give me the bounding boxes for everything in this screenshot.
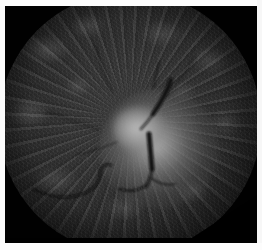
peripheral-vignette	[5, 6, 257, 243]
frame-edge-right	[257, 0, 262, 250]
frame-edge-top	[0, 0, 262, 6]
fundus-photo-plate	[5, 6, 257, 243]
frame-edge-bottom	[0, 243, 262, 250]
frame-edge-left	[0, 0, 5, 250]
retinal-field-circle	[5, 6, 257, 243]
fundus-image-viewport: Optic nerve head (optic disc)	[0, 0, 262, 250]
